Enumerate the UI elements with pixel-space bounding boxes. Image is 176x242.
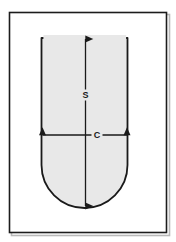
u-profile-open-top-mask (43, 35, 126, 39)
u-profile (42, 38, 128, 208)
dimension-label-s: S (82, 90, 88, 100)
figure-root: S C (0, 0, 176, 242)
figure-svg: S C (0, 0, 176, 242)
dimension-label-c: C (94, 130, 101, 140)
